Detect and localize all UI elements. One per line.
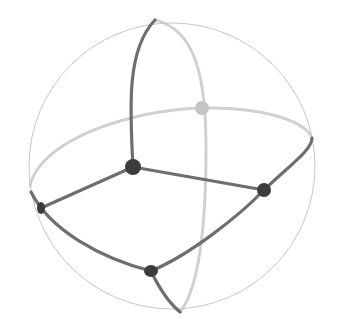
edge-bottom-right <box>151 138 312 271</box>
edge-back-meridian <box>155 20 206 312</box>
node-right <box>257 183 271 197</box>
node-left <box>37 202 45 214</box>
edge-center-left <box>41 167 133 208</box>
node-center <box>125 159 141 175</box>
sphere-outline <box>29 23 315 309</box>
edge-bottom-down <box>151 271 180 312</box>
sphere-svg <box>0 0 348 334</box>
edge-center-right <box>133 167 264 190</box>
sphere-diagram <box>0 0 348 334</box>
edge-center-up <box>131 20 155 167</box>
node-bottom <box>144 265 158 277</box>
node-back-top <box>195 101 209 115</box>
front-layer <box>31 20 312 312</box>
